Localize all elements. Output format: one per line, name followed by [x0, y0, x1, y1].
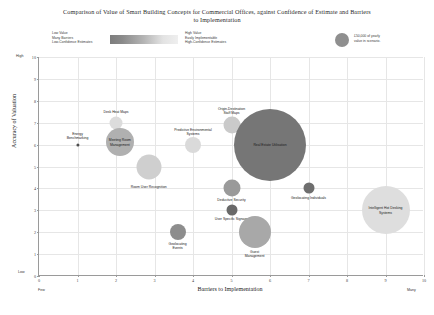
y-tick-label: 4 — [34, 186, 36, 191]
bubble-desk-heat-maps[interactable] — [110, 116, 123, 129]
y-tick-mark — [37, 123, 39, 124]
size-legend-label: £50,000 of yearlyvalue in scenario. — [354, 34, 380, 43]
bubble-user-specific-signage[interactable] — [226, 205, 237, 216]
bubble-geolocating-events[interactable] — [170, 224, 186, 240]
y-axis-high-label: High — [16, 54, 23, 58]
x-tick-label: 2 — [115, 278, 117, 283]
x-tick-label: 3 — [153, 278, 155, 283]
y-tick-label: 2 — [34, 230, 36, 235]
y-tick-label: 3 — [34, 208, 36, 213]
bubble-energy-benchmarking[interactable] — [76, 143, 79, 146]
size-legend: £50,000 of yearlyvalue in scenario. — [335, 31, 430, 51]
y-tick-label: 5 — [34, 164, 36, 169]
bubble-intelligent-hot-desking-systems[interactable] — [362, 186, 410, 234]
grid-line-vertical — [424, 57, 425, 275]
grid-line-horizontal — [39, 232, 423, 233]
y-tick-label: 8 — [34, 98, 36, 103]
x-tick-label: 7 — [307, 278, 309, 283]
color-legend-low-label: Low ValueMany BarriersLow-Confidence Est… — [52, 31, 92, 45]
y-tick-mark — [37, 188, 39, 189]
y-tick-label: 9 — [34, 76, 36, 81]
grid-line-horizontal — [39, 254, 423, 255]
x-tick-label: 10 — [422, 278, 426, 283]
bubble-room-user-recognition[interactable] — [136, 154, 161, 179]
grid-line-horizontal — [39, 57, 423, 58]
x-tick-label: 1 — [76, 278, 78, 283]
y-tick-label: 1 — [34, 252, 36, 257]
x-tick-label: 8 — [346, 278, 348, 283]
y-tick-mark — [37, 210, 39, 211]
bubble-geolocating-individuals[interactable] — [303, 183, 314, 194]
y-axis-title: Accuracy of Valuation — [11, 61, 17, 181]
x-tick-label: 9 — [384, 278, 386, 283]
y-tick-mark — [37, 79, 39, 80]
y-tick-label: 7 — [34, 120, 36, 125]
y-tick-mark — [37, 254, 39, 255]
grid-line-horizontal — [39, 79, 423, 80]
x-tick-label: 4 — [192, 278, 194, 283]
y-tick-label: 0 — [34, 274, 36, 279]
grid-line-horizontal — [39, 167, 423, 168]
y-tick-mark — [37, 101, 39, 102]
y-tick-mark — [37, 276, 39, 277]
x-tick-label: 6 — [269, 278, 271, 283]
bubble-meeting-room-management[interactable] — [106, 128, 134, 156]
chart-title: Comparison of Value of Smart Building Co… — [60, 8, 374, 24]
y-tick-mark — [37, 57, 39, 58]
y-tick-label: 10 — [32, 55, 36, 60]
y-tick-mark — [37, 145, 39, 146]
bubble-guest-management[interactable] — [239, 216, 271, 248]
y-tick-mark — [37, 232, 39, 233]
color-gradient-bar — [110, 35, 178, 44]
x-axis-high-label: Many — [407, 288, 416, 292]
y-axis-low-label: Low — [18, 270, 25, 274]
color-legend-high-label: High ValueEasily ImplementableHigh-Confi… — [185, 31, 226, 45]
x-axis-low-label: Few — [38, 288, 45, 292]
bubble-predictive-environmental-systems[interactable] — [185, 137, 201, 153]
size-legend-bubble-icon — [335, 33, 349, 47]
plot-area: 012345678910012345678910Energy Benchmark… — [38, 57, 423, 276]
bubble-real-estate-utilisation[interactable] — [234, 109, 306, 181]
chart-container: Comparison of Value of Smart Building Co… — [0, 0, 434, 315]
grid-line-horizontal — [39, 145, 423, 146]
y-tick-label: 6 — [34, 142, 36, 147]
x-tick-label: 5 — [230, 278, 232, 283]
x-tick-label: 0 — [38, 278, 40, 283]
bubble-label-geolocating-events: Geolocating Events — [169, 242, 187, 251]
x-axis-title: Barriers to Implementation — [38, 286, 422, 292]
color-legend: Low ValueMany BarriersLow-Confidence Est… — [52, 30, 257, 52]
y-tick-mark — [37, 167, 39, 168]
grid-line-horizontal — [39, 101, 423, 102]
bubble-deductive-security[interactable] — [223, 180, 240, 197]
